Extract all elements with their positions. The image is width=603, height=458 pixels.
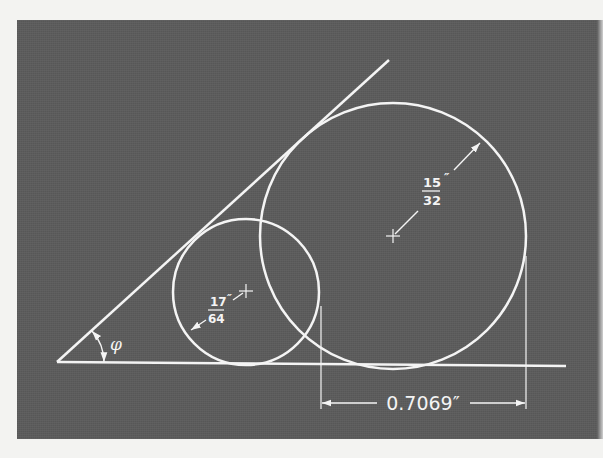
angle-arc — [92, 331, 104, 362]
small-radius-leader-outer — [191, 320, 206, 330]
large-radius-leader-inner — [395, 211, 418, 234]
tangent-circles-diagram: 15 ″ 32 17 ″ 64 φ 0.7069″ — [0, 0, 603, 458]
small-radius-unit: ″ — [227, 292, 232, 305]
large-radius-numerator: 15 — [423, 175, 441, 190]
small-radius-numerator: 17 — [210, 295, 227, 309]
large-radius-unit: ″ — [444, 171, 450, 185]
small-circle-center-mark — [239, 284, 253, 298]
large-radius-leader-outer — [454, 143, 480, 170]
angle-phi-label: φ — [110, 334, 122, 354]
large-radius-denominator: 32 — [423, 193, 441, 208]
center-distance-label: 0.7069″ — [386, 392, 460, 414]
baseline — [57, 362, 566, 366]
small-radius-denominator: 64 — [208, 312, 225, 326]
small-radius-leader-inner — [233, 293, 243, 300]
